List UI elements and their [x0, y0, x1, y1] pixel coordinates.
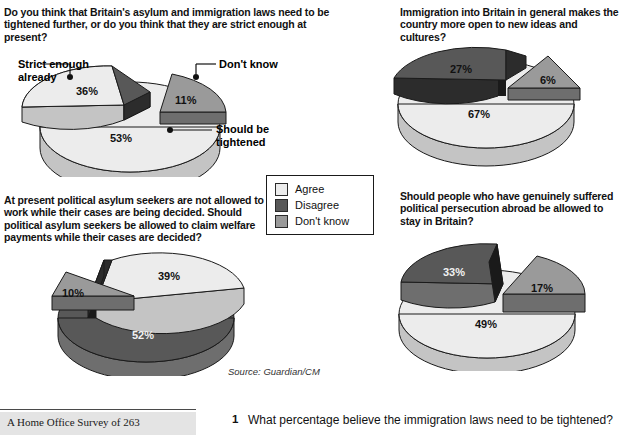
- pie-2-value-agree: 67%: [468, 108, 490, 120]
- callout-label-should-be-tightened: Should be tightened: [216, 123, 269, 148]
- pie-4-value-agree: 49%: [475, 318, 497, 330]
- footer-question-text: What percentage believe the immigration …: [248, 413, 613, 427]
- pie-1-value-dontknow: 11%: [175, 94, 197, 106]
- legend: Agree Disagree Don't know: [266, 175, 374, 235]
- question-4-title: Should people who have genuinely suffere…: [400, 190, 626, 227]
- callout-label-dont-know: Don't know: [219, 58, 278, 70]
- legend-label-disagree: Disagree: [295, 200, 339, 211]
- legend-item-disagree: Disagree: [275, 197, 367, 213]
- legend-swatch-disagree: [275, 199, 288, 212]
- source-note: Source: Guardian/CM: [228, 366, 320, 377]
- pie-1-value-tightened: 53%: [110, 132, 132, 144]
- footer-divider: [0, 409, 196, 410]
- question-3-title: At present political asylum seekers are …: [4, 194, 270, 244]
- pie-2-value-disagree: 27%: [450, 63, 472, 75]
- survey-infographic: Do you think that Britain's asylum and i…: [0, 0, 629, 435]
- pie-2-value-dontknow: 6%: [540, 74, 556, 86]
- pie-chart-4: 33% 17% 49%: [385, 226, 629, 371]
- pie-3-value-dontknow: 10%: [62, 287, 84, 299]
- pie-4-value-dontknow: 17%: [531, 282, 553, 294]
- pie-1-value-strict: 36%: [76, 85, 98, 97]
- pie-3-value-disagree: 52%: [132, 329, 154, 341]
- legend-swatch-agree: [275, 183, 288, 196]
- pie-chart-3: 39% 10% 52%: [0, 246, 280, 376]
- legend-item-agree: Agree: [275, 181, 367, 197]
- footer-question-number: 1: [232, 413, 238, 425]
- question-1-title: Do you think that Britain's asylum and i…: [4, 6, 334, 43]
- callout-label-strict-enough: Strict enough already: [18, 58, 89, 83]
- legend-label-dontknow: Don't know: [295, 216, 349, 227]
- callout-leader-dontknow: [193, 64, 216, 80]
- legend-label-agree: Agree: [295, 184, 324, 195]
- pie-3-value-agree: 39%: [158, 270, 180, 282]
- pie-chart-2: 27% 6% 67%: [380, 26, 629, 171]
- legend-item-dontknow: Don't know: [275, 213, 367, 229]
- legend-swatch-dontknow: [275, 215, 288, 228]
- pie-4-value-disagree: 33%: [443, 266, 465, 278]
- footer-caption-text: A Home Office Survey of 263: [7, 416, 140, 428]
